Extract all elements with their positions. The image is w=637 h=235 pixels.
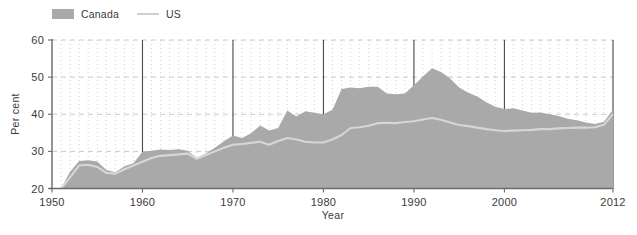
- plot-area: 2030405060 1950196019701980199020002012 …: [0, 0, 637, 235]
- series-group: [61, 68, 613, 188]
- x-tick-label: 1990: [401, 196, 426, 208]
- x-tick-label: 2000: [492, 196, 517, 208]
- area-chart: Canada US 2030405060 1950196019701980199…: [0, 0, 637, 235]
- x-tick-label: 2012: [600, 196, 625, 208]
- x-tick-label: 1970: [220, 196, 245, 208]
- x-tick-label: 1960: [130, 196, 155, 208]
- y-tick-label: 60: [31, 34, 44, 46]
- x-tick-label: 1980: [311, 196, 336, 208]
- y-tick-label: 20: [31, 183, 44, 195]
- y-tick-label: 50: [31, 71, 44, 83]
- y-tick-label: 30: [31, 145, 44, 157]
- y-axis-tick-labels: 2030405060: [31, 34, 44, 195]
- series-canada-area: [61, 68, 613, 188]
- x-tick-label: 1950: [39, 196, 64, 208]
- y-tick-label: 40: [31, 108, 44, 120]
- x-axis-tick-labels: 1950196019701980199020002012: [39, 196, 625, 208]
- x-axis-title: Year: [322, 209, 345, 221]
- y-axis-title: Per cent: [9, 93, 21, 135]
